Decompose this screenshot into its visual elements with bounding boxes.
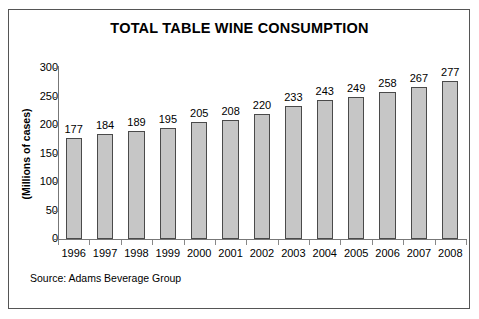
bar [128, 131, 144, 239]
y-tick-label: 100 [24, 175, 58, 187]
bar [191, 122, 207, 239]
x-tick-mark [89, 240, 90, 245]
x-tick-mark [309, 240, 310, 245]
x-tick-mark [121, 240, 122, 245]
y-tick-mark [54, 97, 58, 98]
bar [411, 87, 427, 239]
bar [348, 97, 364, 239]
y-tick-label: 50 [24, 204, 58, 216]
y-tick-mark [54, 182, 58, 183]
x-axis-line [58, 239, 467, 240]
bar [442, 81, 458, 239]
x-tick-mark [152, 240, 153, 245]
y-tick-label: 250 [24, 90, 58, 102]
x-tick-mark [215, 240, 216, 245]
figure-container: TOTAL TABLE WINE CONSUMPTION (Millions o… [0, 0, 479, 319]
y-tick-label: 150 [24, 147, 58, 159]
x-tick-label: 2008 [430, 247, 470, 259]
x-tick-mark [278, 240, 279, 245]
x-tick-mark [403, 240, 404, 245]
bar [160, 128, 176, 239]
y-tick-label: 0 [24, 232, 58, 244]
bar [97, 134, 113, 239]
y-tick-mark [54, 68, 58, 69]
chart-title: TOTAL TABLE WINE CONSUMPTION [0, 20, 479, 36]
x-tick-mark [184, 240, 185, 245]
y-tick-label: 300 [24, 61, 58, 73]
x-tick-mark [58, 240, 59, 245]
x-tick-mark [466, 240, 467, 245]
bar [66, 138, 82, 239]
source-note: Source: Adams Beverage Group [30, 272, 181, 284]
bar-value-label: 277 [430, 66, 470, 78]
bar [254, 114, 270, 239]
x-tick-mark [435, 240, 436, 245]
x-tick-mark [340, 240, 341, 245]
bar [317, 100, 333, 239]
x-tick-mark [372, 240, 373, 245]
bar [379, 92, 395, 239]
bar [222, 120, 238, 239]
y-tick-mark [54, 211, 58, 212]
y-tick-mark [54, 154, 58, 155]
bar [285, 106, 301, 239]
x-tick-mark [246, 240, 247, 245]
